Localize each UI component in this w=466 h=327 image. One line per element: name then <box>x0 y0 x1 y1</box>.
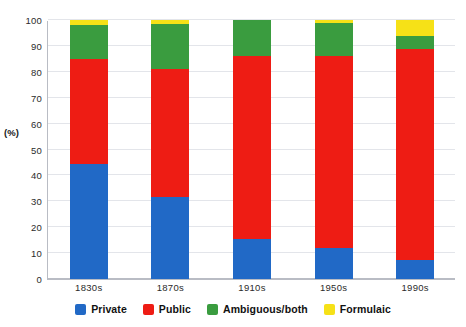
legend-swatch-icon <box>207 304 218 315</box>
bar-stack <box>396 20 434 279</box>
bar-segment-public[interactable] <box>233 56 271 239</box>
legend-item[interactable]: Ambiguous/both <box>207 303 308 315</box>
legend-swatch-icon <box>324 304 335 315</box>
legend-label: Formulaic <box>340 303 391 315</box>
bar-segment-ambiguous-both[interactable] <box>315 23 353 57</box>
legend-item[interactable]: Public <box>143 303 191 315</box>
bar-stack <box>233 20 271 279</box>
y-axis-tick-label: 60 <box>31 118 42 129</box>
y-axis-tick-label: 0 <box>37 274 42 285</box>
bar-group[interactable]: 1870s <box>151 20 189 279</box>
bar-segment-private[interactable] <box>151 197 189 279</box>
legend-item[interactable]: Private <box>75 303 127 315</box>
bar-stack <box>70 20 108 279</box>
bar-segment-formulaic[interactable] <box>70 20 108 25</box>
y-axis-unit-label: (%) <box>4 127 19 138</box>
x-axis-tick-label: 1870s <box>157 282 184 293</box>
bar-segment-formulaic[interactable] <box>396 20 434 36</box>
bar-segment-public[interactable] <box>315 56 353 248</box>
y-axis-tick-label: 90 <box>31 40 42 51</box>
chart-legend: PrivatePublicAmbiguous/bothFormulaic <box>0 303 466 315</box>
y-axis-tick-label: 40 <box>31 170 42 181</box>
legend-label: Ambiguous/both <box>223 303 308 315</box>
bar-group[interactable]: 1950s <box>315 20 353 279</box>
plot-area: 0102030405060708090100 1830s1870s1910s19… <box>47 21 455 280</box>
bar-segment-private[interactable] <box>70 164 108 279</box>
bar-segment-ambiguous-both[interactable] <box>396 36 434 49</box>
bar-group[interactable]: 1830s <box>70 20 108 279</box>
bar-segment-public[interactable] <box>70 59 108 164</box>
y-axis-tick-label: 50 <box>31 144 42 155</box>
legend-swatch-icon <box>75 304 86 315</box>
x-axis-tick-label: 1990s <box>401 282 428 293</box>
y-axis-tick-label: 80 <box>31 66 42 77</box>
x-axis-tick-label: 1950s <box>320 282 347 293</box>
bar-stack <box>315 20 353 279</box>
y-axis-tick-label: 30 <box>31 196 42 207</box>
bar-group[interactable]: 1990s <box>396 20 434 279</box>
bar-segment-public[interactable] <box>396 49 434 260</box>
y-axis-tick-label: 100 <box>26 15 42 26</box>
legend-label: Private <box>91 303 127 315</box>
x-axis-tick-label: 1830s <box>75 282 102 293</box>
bar-segment-ambiguous-both[interactable] <box>233 20 271 56</box>
x-axis-tick-label: 1910s <box>238 282 265 293</box>
legend-label: Public <box>159 303 191 315</box>
bar-stack <box>151 20 189 279</box>
bar-group[interactable]: 1910s <box>233 20 271 279</box>
bar-segment-private[interactable] <box>315 248 353 279</box>
bar-segment-ambiguous-both[interactable] <box>151 24 189 69</box>
bar-segment-private[interactable] <box>396 260 434 279</box>
y-axis-tick-label: 10 <box>31 248 42 259</box>
bar-segment-formulaic[interactable] <box>151 20 189 24</box>
bar-segment-ambiguous-both[interactable] <box>70 25 108 59</box>
bar-segment-public[interactable] <box>151 69 189 197</box>
y-axis-tick-label: 70 <box>31 92 42 103</box>
stacked-bar-chart: (%) 0102030405060708090100 1830s1870s191… <box>0 0 466 327</box>
bar-segment-private[interactable] <box>233 239 271 279</box>
bar-segment-formulaic[interactable] <box>315 20 353 23</box>
legend-item[interactable]: Formulaic <box>324 303 391 315</box>
bars-layer: 1830s1870s1910s1950s1990s <box>48 21 455 279</box>
legend-swatch-icon <box>143 304 154 315</box>
y-axis-tick-label: 20 <box>31 222 42 233</box>
